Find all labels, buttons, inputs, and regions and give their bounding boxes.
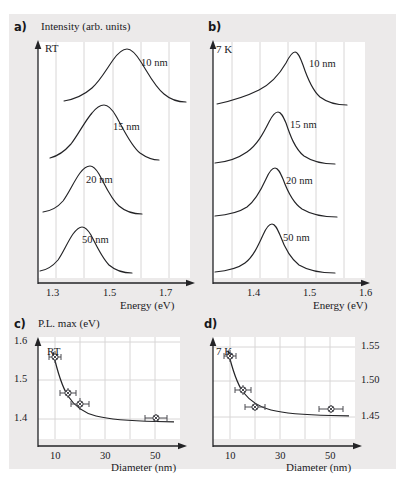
- panel-a-condition-label: RT: [45, 42, 58, 54]
- panel-c-xtick-2: 30: [100, 450, 111, 461]
- panel-d-ytick-1: 1.45: [361, 410, 379, 421]
- panel-a-curve-label-20nm: 20 nm: [86, 174, 113, 185]
- panel-c-ytick-3: 1.6: [14, 335, 27, 346]
- panel-c-xtick-3: 50: [150, 450, 161, 461]
- panel-d-x-axis-label: Diameter (nm): [286, 461, 351, 473]
- panel-a-curve-label-10nm: 10 nm: [141, 57, 168, 68]
- panel-a-xtick-2: 1.5: [103, 287, 116, 298]
- panel-c-letter: c): [14, 317, 26, 331]
- panel-b-x-axis-label: Energy (eV): [313, 299, 367, 311]
- panel-c-ytick-1: 1.4: [14, 412, 27, 423]
- panel-a-letter: a): [14, 20, 27, 34]
- panel-d-condition-label: 7 K: [216, 345, 232, 357]
- panel-a-xtick-1: 1.3: [46, 287, 59, 298]
- panel-d-xtick-2: 30: [275, 450, 286, 461]
- panel-d-ytick-3: 1.55: [361, 340, 379, 351]
- panel-a-curve-label-50nm: 50 nm: [82, 234, 109, 245]
- panel-b-xtick-3: 1.6: [359, 287, 372, 298]
- panel-a-x-axis-label: Energy (eV): [120, 299, 174, 311]
- panel-a-xtick-3: 1.7: [159, 287, 172, 298]
- panel-a-axes: [30, 36, 200, 288]
- panel-b-letter: b): [208, 20, 221, 34]
- panel-b-curve-label-50nm: 50 nm: [283, 232, 310, 243]
- panel-b-curve-label-20nm: 20 nm: [286, 175, 313, 186]
- panel-b-xtick-1: 1.4: [247, 287, 260, 298]
- panel-d-xtick-3: 50: [325, 450, 336, 461]
- panel-c-x-axis-label: Diameter (nm): [111, 461, 176, 473]
- panel-b-axes: [205, 36, 375, 288]
- panel-d-letter: d): [204, 317, 217, 331]
- panel-d-xtick-1: 10: [225, 450, 236, 461]
- panel-c-xtick-1: 10: [50, 450, 61, 461]
- panel-b-xtick-2: 1.5: [303, 287, 316, 298]
- panel-c-y-axis-label: P.L. max (eV): [38, 317, 100, 329]
- panel-a-y-axis-label: Intensity (arb. units): [41, 20, 131, 32]
- panel-c-ytick-2: 1.5: [14, 373, 27, 384]
- panel-b-curve-label-15nm: 15 nm: [290, 119, 317, 130]
- panel-a-curve-label-15nm: 15 nm: [113, 121, 140, 132]
- panel-c-condition-label: RT: [47, 345, 60, 357]
- figure-root: a) Intensity (arb. units) RT 10 nm 15 nm…: [0, 0, 405, 479]
- panel-d-ytick-2: 1.50: [361, 374, 379, 385]
- panel-b-condition-label: 7 K: [216, 43, 232, 55]
- panel-b-curve-label-10nm: 10 nm: [309, 58, 336, 69]
